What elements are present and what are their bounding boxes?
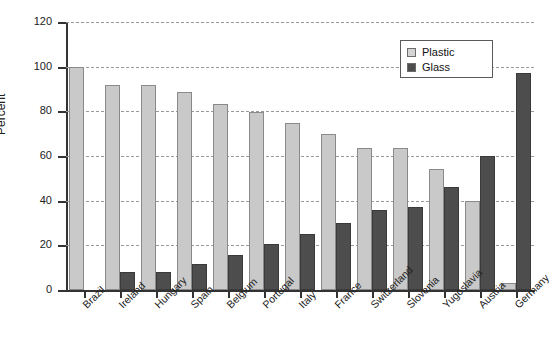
y-tick-label: 100 [18,60,52,72]
gridline [66,156,534,157]
bar-glass-yugoslavia [444,187,459,290]
y-tick-label: 120 [18,15,52,27]
bar-glass-germany [516,73,531,290]
legend-swatch-plastic-icon [407,48,416,57]
legend-swatch-glass-icon [407,63,416,72]
bar-plastic-portugal [249,112,264,290]
y-axis-title: Percent [0,94,8,135]
bar-plastic-switzerland [357,148,372,290]
legend-item-glass: Glass [407,60,486,75]
bar-plastic-yugoslavia [429,169,444,290]
y-tick-label: 60 [18,149,52,161]
bar-plastic-belgium [213,104,228,290]
chart-legend: Plastic Glass [400,40,493,78]
bar-glass-slovenia [408,207,423,290]
bar-plastic-brazil [69,67,84,290]
bar-plastic-spain [177,92,192,290]
bar-glass-austria [480,156,495,290]
bar-glass-switzerland [372,210,387,290]
gridline [66,111,534,112]
bar-plastic-ireland [105,85,120,290]
bar-plastic-italy [285,123,300,291]
bar-glass-italy [300,234,315,290]
y-tick-label: 80 [18,104,52,116]
y-tick-label: 20 [18,238,52,250]
gridline [66,22,534,23]
legend-label-glass: Glass [422,62,450,73]
bar-plastic-france [321,134,336,290]
bar-chart: Percent 020406080100120 BrazilIrelandHun… [0,0,557,360]
legend-item-plastic: Plastic [407,45,486,60]
gridline [66,201,534,202]
bar-plastic-hungary [141,85,156,290]
bar-glass-portugal [264,244,279,290]
bar-glass-france [336,223,351,290]
y-tick-label: 40 [18,194,52,206]
legend-label-plastic: Plastic [422,47,454,58]
y-tick-label: 0 [18,283,52,295]
